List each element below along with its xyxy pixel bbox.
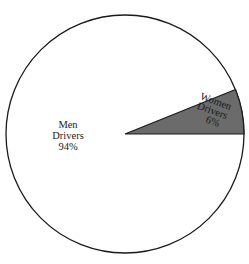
label-men-line1: Men	[58, 119, 78, 130]
label-men-percent: 94%	[58, 141, 78, 152]
label-men-line2: Drivers	[52, 130, 84, 141]
pie-chart: Men Drivers 94% Women Drivers 6%	[0, 0, 249, 264]
